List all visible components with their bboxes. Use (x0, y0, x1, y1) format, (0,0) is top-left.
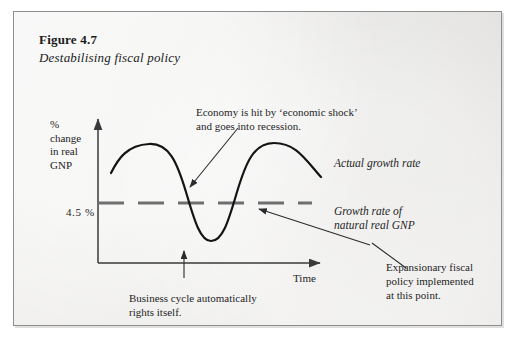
figure-screenshot: Figure 4.7 Destabilising fiscal policy %… (0, 0, 516, 341)
plot-area (14, 12, 503, 327)
actual-growth-rate-curve (111, 143, 321, 241)
figure-frame: Figure 4.7 Destabilising fiscal policy %… (13, 11, 502, 326)
annotation-arrow-expansionary-policy (259, 209, 370, 245)
annotation-leader-expansionary-policy (372, 243, 406, 268)
annotation-arrow-economic-shock (190, 128, 238, 187)
